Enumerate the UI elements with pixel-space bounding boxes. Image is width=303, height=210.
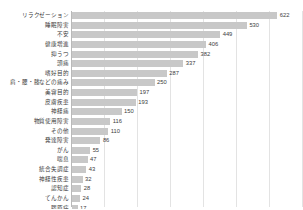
bar-rows: リラクゼーション622睡眠障害530不安449健康増進406抑うつ382頭痛33… [0,11,303,209]
bar [72,51,198,58]
bar-container: 86 [72,136,303,145]
bar [72,31,220,38]
bar-row: 美容目的197 [0,88,303,97]
bar-container: 32 [72,175,303,184]
bar [72,60,183,67]
bar-value-label: 110 [111,127,120,136]
category-label: 頭痛 [0,59,69,68]
bar-value-label: 250 [157,78,167,87]
category-label: 神経性疾患 [0,175,69,184]
bar-container: 337 [72,59,303,68]
category-label: 健康増進 [0,40,69,49]
bar [72,79,155,86]
bar-row: 統合失調症43 [0,165,303,174]
bar-container: 197 [72,88,303,97]
category-label: がん [0,146,69,155]
bar [72,89,137,96]
category-label: 膠原病 [0,204,69,210]
bar-row: 物質使用障害116 [0,117,303,126]
category-label: リラクゼーション [0,11,69,20]
category-label: 認知症 [0,184,69,193]
bar-container: 622 [72,11,303,20]
bar [72,41,206,48]
bar-row: 発達障害86 [0,136,303,145]
bar-value-label: 24 [82,194,88,203]
bar-container: 193 [72,98,303,107]
bar [72,156,88,163]
bar-row: 嗜好目的287 [0,69,303,78]
bar-container: 43 [72,165,303,174]
bar-value-label: 116 [113,117,122,126]
bar-row: がん55 [0,146,303,155]
horizontal-bar-chart: リラクゼーション622睡眠障害530不安449健康増進406抑うつ382頭痛33… [0,0,303,209]
bar-container: 47 [72,155,303,164]
bar [72,22,247,29]
bar-container: 28 [72,184,303,193]
bar-container: 55 [72,146,303,155]
bar [72,99,136,106]
category-label: 不安 [0,30,69,39]
bar-row: 不安449 [0,30,303,39]
bar-row: 睡眠障害530 [0,21,303,30]
bar [72,185,81,192]
bar-row: 抑うつ382 [0,50,303,59]
bar [72,195,80,202]
bar-value-label: 86 [103,136,109,145]
bar [72,12,277,19]
bar-container: 24 [72,194,303,203]
bar-value-label: 530 [249,21,259,30]
bar [72,70,167,77]
plot-area: リラクゼーション622睡眠障害530不安449健康増進406抑うつ382頭痛33… [0,11,303,207]
bar [72,128,108,135]
bar-row: 皮膚疾患193 [0,98,303,107]
bar [72,147,90,154]
bar-row: てんかん24 [0,194,303,203]
bar [72,166,86,173]
bar [72,176,83,183]
category-label: 肩・腰・膝などの痛み [0,78,69,87]
bar-container: 530 [72,21,303,30]
bar-value-label: 449 [223,30,233,39]
bar-container: 382 [72,50,303,59]
bar-row: 神経性疾患32 [0,175,303,184]
bar-row: 膠原病17 [0,204,303,210]
bar-container: 150 [72,107,303,116]
bar-row: 認知症28 [0,184,303,193]
category-label: 抑うつ [0,50,69,59]
category-label: 神経痛 [0,107,69,116]
bar-row: 神経痛150 [0,107,303,116]
category-label: 美容目的 [0,88,69,97]
bar-value-label: 28 [84,184,90,193]
bar-container: 17 [72,204,303,210]
category-label: その他 [0,127,69,136]
category-label: 喘息 [0,155,69,164]
category-label: 発達障害 [0,136,69,145]
bar-container: 116 [72,117,303,126]
bar-value-label: 55 [93,146,99,155]
bar-value-label: 337 [186,59,196,68]
bar-value-label: 406 [208,40,218,49]
category-label: 物質使用障害 [0,117,69,126]
category-label: 嗜好目的 [0,69,69,78]
bar [72,108,122,115]
bar [72,137,100,144]
bar [72,205,78,209]
bar-row: 喘息47 [0,155,303,164]
category-label: 統合失調症 [0,165,69,174]
bar-row: リラクゼーション622 [0,11,303,20]
bar-row: 健康増進406 [0,40,303,49]
bar-value-label: 17 [80,204,86,210]
bar-container: 110 [72,127,303,136]
bar-container: 449 [72,30,303,39]
bar-value-label: 193 [138,98,148,107]
bar-container: 250 [72,78,303,87]
bar-value-label: 382 [201,50,211,59]
bar-value-label: 32 [85,175,91,184]
bar-container: 406 [72,40,303,49]
category-label: 皮膚疾患 [0,98,69,107]
bar [72,118,110,125]
bar-value-label: 287 [169,69,179,78]
bar-value-label: 43 [89,165,95,174]
bar-container: 287 [72,69,303,78]
bar-row: 肩・腰・膝などの痛み250 [0,78,303,87]
